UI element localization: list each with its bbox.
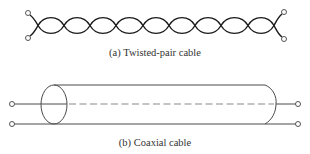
terminal-icon	[296, 102, 301, 107]
terminal-icon	[282, 37, 287, 42]
terminal-icon	[10, 102, 15, 107]
twisted-pair-caption: (a) Twisted-pair cable	[109, 47, 201, 59]
terminal-icon	[296, 122, 301, 127]
coaxial-caption: (b) Coaxial cable	[119, 137, 192, 149]
cable-diagram-svg: (a) Twisted-pair cable (b) Coaxial cable	[0, 0, 310, 154]
cable-diagram: (a) Twisted-pair cable (b) Coaxial cable	[0, 0, 310, 154]
terminal-icon	[10, 122, 15, 127]
terminal-icon	[26, 11, 31, 16]
terminal-icon	[282, 10, 287, 15]
coax-terminals	[10, 102, 301, 127]
terminal-icon	[26, 36, 31, 41]
twisted-pair-cable	[30, 14, 282, 37]
